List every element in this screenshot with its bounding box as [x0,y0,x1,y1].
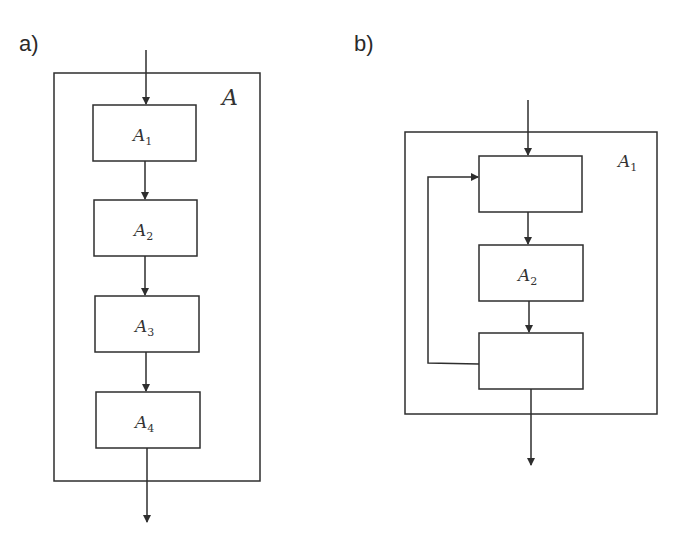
block-top [479,156,582,212]
container-A-label: A [220,85,238,110]
panel-a: a) A A1 A2 A3 A4 [19,31,260,522]
block-A2 [479,245,583,301]
panel-b: b) A1 A2 [354,31,657,465]
diagram-canvas: a) A A1 A2 A3 A4 b) [0,0,676,540]
block-A4 [96,392,200,448]
block-bottom [479,333,583,389]
panel-b-label: b) [354,31,374,56]
panel-a-label: a) [19,31,39,56]
